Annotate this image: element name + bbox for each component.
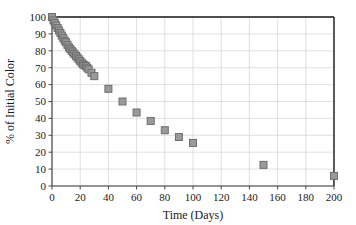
x-axis-tick-label: 60 [131,191,143,203]
x-axis-tick-label: 20 [75,191,87,203]
y-axis-tick-label: 90 [35,28,47,40]
data-point-marker [175,133,182,140]
x-axis-tick-label: 100 [185,191,202,203]
x-axis-tick-label: 40 [103,191,115,203]
data-point-marker [91,73,98,80]
y-axis-tick-label: 70 [35,62,47,74]
data-point-marker [190,139,197,146]
y-axis-tick-label: 60 [35,78,47,90]
y-axis-tick-label: 20 [35,146,47,158]
chart-canvas: 0102030405060708090100020406080100120140… [0,0,356,225]
y-axis-tick-label: 40 [35,112,47,124]
y-axis-title: % of Initial Color [3,59,17,144]
x-axis-tick-label: 200 [326,191,343,203]
x-axis-title: Time (Days) [163,208,224,222]
x-axis-tick-label: 120 [213,191,230,203]
data-point-marker [147,117,154,124]
y-axis-tick-label: 0 [41,180,47,192]
data-point-marker [161,127,168,134]
x-axis-tick-label: 140 [241,191,258,203]
y-axis-tick-label: 100 [30,11,47,23]
y-axis-tick-label: 50 [35,95,47,107]
data-point-marker [119,98,126,105]
y-axis-tick-label: 30 [35,129,47,141]
data-point-marker [260,161,267,168]
data-point-marker [105,85,112,92]
x-axis-tick-label: 160 [269,191,286,203]
y-axis-tick-label: 10 [35,163,47,175]
scatter-chart: 0102030405060708090100020406080100120140… [0,0,356,225]
data-point-marker [331,172,338,179]
y-axis-tick-label: 80 [35,45,47,57]
x-axis-tick-label: 180 [298,191,315,203]
x-axis-tick-label: 80 [159,191,171,203]
x-axis-tick-label: 0 [49,191,55,203]
data-point-marker [133,109,140,116]
